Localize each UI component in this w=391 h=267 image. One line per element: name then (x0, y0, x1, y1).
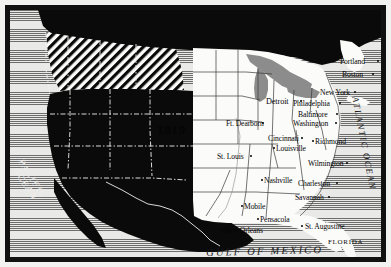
city-label-mobile: Mobile (244, 203, 265, 211)
city-label-philadelphia: Philadelphia (293, 100, 330, 108)
city-label-washington: Washington (293, 120, 328, 128)
city-label-portland: Portland (340, 58, 365, 66)
map-frame: 1819 PACIFIC OCEAN ATLANTIC OCEAN GULF O… (5, 5, 386, 262)
landmass-shapes (10, 10, 381, 257)
city-label-new-orleans: New Orleans (224, 227, 263, 235)
city-label-richmond: Richmond (315, 138, 346, 146)
gulf-of-mexico-label: GULF OF MEXICO (206, 244, 323, 257)
city-label-boston: Boston (342, 71, 363, 79)
city-label-louisville: Louisville (276, 145, 306, 153)
city-label-pensacola: Pensacola (260, 216, 289, 224)
city-label-baltimore: Baltimore (298, 111, 327, 119)
city-label-cincinnati: Cincinnati (268, 135, 299, 143)
city-label-ft-dearborn: Ft. Dearborn (226, 120, 264, 128)
map-year-label: 1819 (157, 123, 186, 137)
city-label-detroit: Detroit (266, 98, 289, 106)
city-label-st-augustine: St. Augustine (305, 223, 345, 231)
city-label-charleston: Charleston (298, 180, 330, 188)
map-canvas: 1819 PACIFIC OCEAN ATLANTIC OCEAN GULF O… (10, 10, 381, 257)
city-label-nashville: Nashville (264, 177, 292, 185)
florida-region-label: FLORIDA (328, 239, 363, 246)
historical-map-figure: 1819 PACIFIC OCEAN ATLANTIC OCEAN GULF O… (0, 0, 391, 267)
city-label-new-york: New York (320, 89, 350, 97)
city-label-st-louis: St. Louis (217, 153, 244, 161)
city-label-savannah: Savannah (295, 194, 324, 202)
city-label-wilmington: Wilmington (308, 160, 343, 168)
